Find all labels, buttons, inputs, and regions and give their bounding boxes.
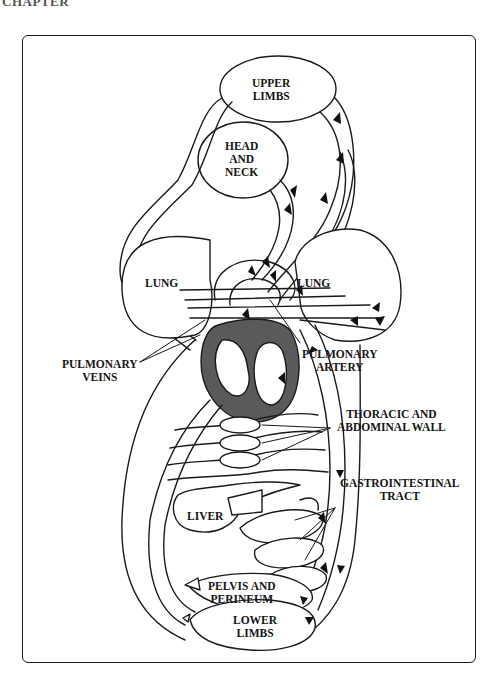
pulmonary-artery-label: PULMONARY ARTERY <box>302 348 378 374</box>
thoracic-wall-leader <box>262 425 330 428</box>
pelvis-perineum-label: PELVIS AND PERINEUM <box>208 580 276 606</box>
liver-label: LIVER <box>187 510 223 523</box>
head-and-neck-label: HEAD AND NECK <box>225 140 258 179</box>
lower-limbs-label: LOWER LIMBS <box>233 614 277 640</box>
gastrointestinal-tract-label: GASTROINTESTINAL TRACT <box>340 477 460 503</box>
right-lung-label: LUNG <box>297 277 330 290</box>
thoracic-abdominal-wall-label: THORACIC AND ABDOMINAL WALL <box>337 408 446 434</box>
pulmonary-veins-label: PULMONARY VEINS <box>62 358 138 384</box>
left-lung-label: LUNG <box>145 277 178 290</box>
upper-limbs-label: UPPER LIMBS <box>252 77 290 103</box>
thoracic-wall-vessels <box>168 414 328 480</box>
